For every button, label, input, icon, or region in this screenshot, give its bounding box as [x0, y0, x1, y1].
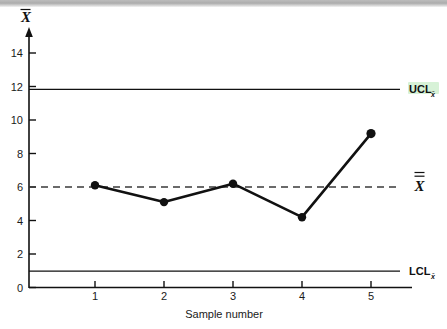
x-tick-label-2: 2	[161, 290, 167, 302]
center-line-label: X	[413, 178, 425, 194]
data-point-1[interactable]	[91, 181, 99, 189]
ucl-label: UCL	[409, 83, 432, 95]
center-line-label-group: X	[413, 173, 425, 195]
data-point-4[interactable]	[298, 213, 306, 221]
xbar-control-chart: 0 2 4 6 8 10 12 14 X 1 2 3 4 5 Sample nu…	[0, 0, 447, 329]
x-tick-label-3: 3	[230, 290, 236, 302]
data-point-3[interactable]	[229, 180, 237, 188]
y-tick-label-6: 6	[17, 181, 23, 193]
y-axis-title: X	[20, 9, 32, 25]
y-tick-label-0: 0	[17, 282, 23, 294]
plot-background	[0, 7, 447, 329]
x-tick-label-1: 1	[92, 290, 98, 302]
chart-canvas: 0 2 4 6 8 10 12 14 X 1 2 3 4 5 Sample nu…	[0, 0, 447, 329]
y-axis-title-group: X	[20, 9, 32, 25]
y-tick-label-14: 14	[11, 47, 23, 59]
y-tick-label-10: 10	[11, 114, 23, 126]
x-tick-label-4: 4	[299, 290, 305, 302]
y-tick-label-12: 12	[11, 81, 23, 93]
lcl-label: LCL	[409, 265, 431, 277]
data-point-5[interactable]	[366, 129, 375, 138]
y-tick-label-2: 2	[17, 248, 23, 260]
y-tick-label-4: 4	[17, 215, 23, 227]
data-point-2[interactable]	[160, 198, 168, 206]
x-tick-label-5: 5	[368, 290, 374, 302]
y-tick-label-8: 8	[17, 148, 23, 160]
x-axis-title: Sample number	[185, 308, 263, 320]
